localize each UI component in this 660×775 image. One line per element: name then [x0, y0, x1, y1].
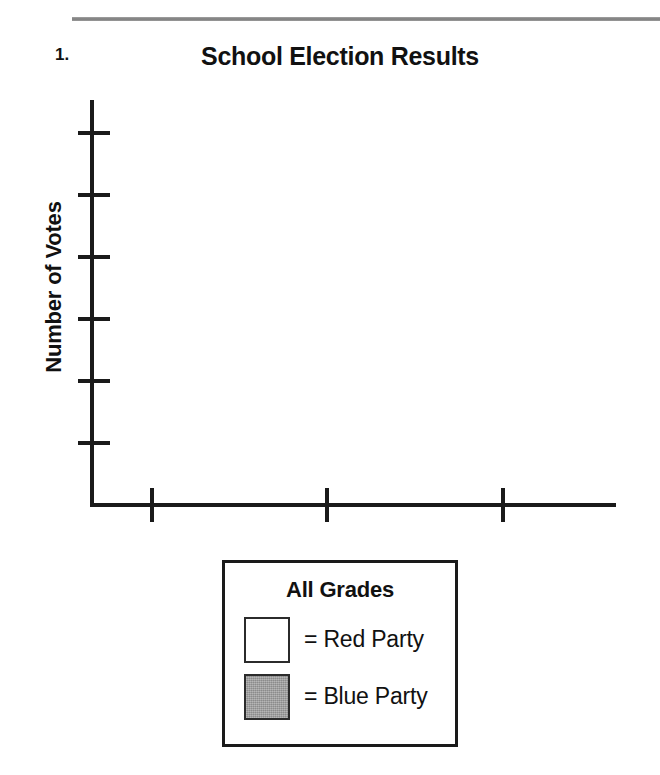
legend-item-label: = Blue Party	[304, 683, 428, 710]
legend-title: All Grades	[225, 577, 455, 603]
chart-legend: All Grades = Red Party = Blue Party	[222, 560, 458, 747]
legend-item-blue-party: = Blue Party	[244, 674, 444, 722]
y-axis-label: Number of Votes	[41, 162, 67, 412]
legend-swatch-gray-square	[244, 674, 290, 720]
chart-plot-area: Number of Votes	[0, 0, 660, 540]
legend-swatch-white-square	[244, 617, 290, 663]
legend-item-red-party: = Red Party	[244, 617, 444, 665]
worksheet-page: 1. School Election Results Number of Vot…	[0, 0, 660, 775]
legend-item-label: = Red Party	[304, 626, 424, 653]
chart-axes-svg	[0, 0, 660, 540]
